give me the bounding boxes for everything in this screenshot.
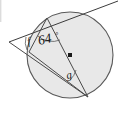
geometry-figure: 64 ° f g [0, 0, 120, 117]
circle-center-dot [68, 53, 72, 57]
scan-edge-artifact [0, 0, 1, 22]
geometry-canvas: 64 ° f g [0, 0, 120, 117]
